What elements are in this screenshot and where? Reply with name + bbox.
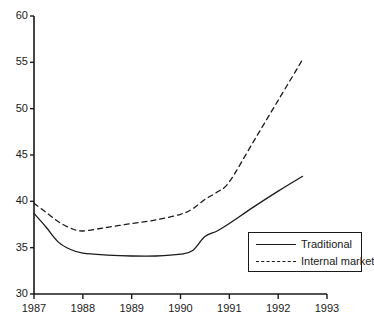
series-line-internal-market — [34, 60, 303, 231]
y-axis-tick-label: 35 — [2, 242, 28, 253]
legend-label-traditional: Traditional — [301, 237, 352, 251]
y-axis-tick-label: 40 — [2, 195, 28, 206]
y-axis-tick-label: 50 — [2, 103, 28, 114]
x-axis-tick-label: 1993 — [307, 303, 347, 314]
x-axis-tick-label: 1990 — [161, 303, 201, 314]
legend-label-internal-market: Internal market — [301, 254, 374, 268]
legend-swatch-solid-icon — [256, 244, 296, 246]
x-axis-tick-label: 1989 — [112, 303, 152, 314]
y-axis-tick-label: 55 — [2, 56, 28, 67]
x-axis-tick-label: 1988 — [63, 303, 103, 314]
chart-legend: Traditional Internal market — [248, 232, 362, 272]
series-group — [34, 60, 303, 257]
y-axis-tick-label: 60 — [2, 10, 28, 21]
legend-entry-internal-market: Internal market — [249, 253, 363, 270]
x-axis-tick-label: 1992 — [258, 303, 298, 314]
y-axis-tick-label: 30 — [2, 288, 28, 299]
legend-entry-traditional: Traditional — [249, 236, 363, 253]
x-axis-tick-label: 1991 — [209, 303, 249, 314]
x-axis-tick-label: 1987 — [14, 303, 54, 314]
y-axis-tick-label: 45 — [2, 149, 28, 160]
legend-swatch-dashed-icon — [256, 261, 296, 263]
